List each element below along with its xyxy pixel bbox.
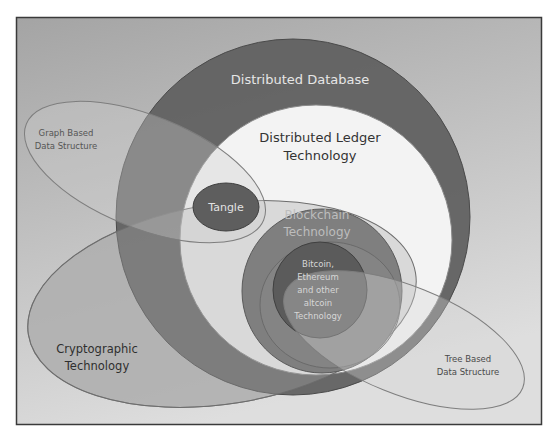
altcoin-label-line4: altcoin bbox=[304, 298, 333, 308]
cryptographic-label-line2: Technology bbox=[64, 359, 130, 373]
distributed-ledger-label-line2: Technology bbox=[283, 148, 357, 163]
tree-based-label-line1: Tree Based bbox=[444, 354, 492, 364]
graph-based-label-line2: Data Structure bbox=[35, 141, 98, 151]
blockchain-label-line1: Blockchain bbox=[285, 208, 350, 222]
altcoin-label-line2: Ethereum bbox=[297, 272, 339, 282]
technology-venn-diagram: Distributed Database Distributed Ledger … bbox=[0, 0, 558, 443]
tree-based-label-line2: Data Structure bbox=[437, 367, 500, 377]
altcoin-label-line1: Bitcoin, bbox=[302, 259, 334, 269]
altcoin-label-line3: and other bbox=[297, 285, 339, 295]
distributed-database-label: Distributed Database bbox=[231, 72, 369, 87]
blockchain-label-line2: Technology bbox=[282, 225, 350, 239]
tangle-label: Tangle bbox=[207, 201, 244, 214]
graph-based-label-line1: Graph Based bbox=[39, 128, 94, 138]
cryptographic-label-line1: Cryptographic bbox=[56, 342, 138, 356]
distributed-ledger-label-line1: Distributed Ledger bbox=[259, 130, 381, 145]
altcoin-label-line5: Technology bbox=[293, 311, 342, 321]
